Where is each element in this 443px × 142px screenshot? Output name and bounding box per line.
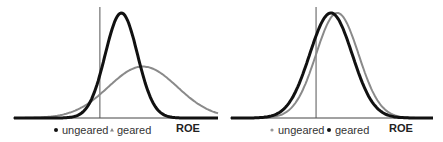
series-line-geared bbox=[14, 67, 218, 118]
series-line-ungeared bbox=[231, 13, 433, 118]
legend-marker-geared bbox=[110, 128, 114, 132]
x-axis-label: ROE bbox=[176, 122, 200, 134]
legend-marker-ungeared bbox=[54, 128, 58, 132]
legend-label-geared: geared bbox=[117, 124, 151, 136]
chart-left: ungeared geared ROE bbox=[13, 7, 218, 136]
legend-label-ungeared: ungeared bbox=[62, 124, 109, 136]
legend-marker-geared bbox=[327, 128, 331, 132]
series-line-ungeared bbox=[14, 13, 218, 118]
charts-container: ungeared geared ROE ungeared geared ROE bbox=[0, 0, 443, 142]
legend-label-ungeared: ungeared bbox=[278, 124, 325, 136]
legend-marker-ungeared bbox=[270, 128, 273, 131]
legend: ungeared geared bbox=[54, 124, 151, 136]
series-line-geared bbox=[231, 13, 433, 118]
x-axis-label: ROE bbox=[389, 122, 413, 134]
legend: ungeared geared bbox=[270, 124, 369, 136]
chart-right: ungeared geared ROE bbox=[230, 7, 433, 136]
legend-label-geared: geared bbox=[335, 124, 369, 136]
